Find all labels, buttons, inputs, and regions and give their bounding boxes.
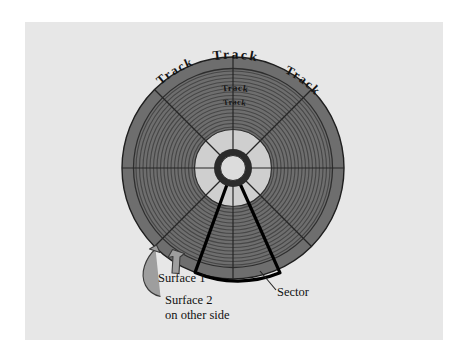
- spindle-hub: [214, 149, 252, 187]
- surface-2-label: Surface 2on other side: [165, 293, 230, 323]
- track-label-inner-upper: Track: [221, 83, 249, 94]
- sector-label: Sector: [277, 285, 309, 300]
- disk-platter-diagram: Track Track Track Track Track: [0, 0, 464, 349]
- surface-2-label-line1: Surface 2: [165, 293, 213, 307]
- surface-1-label: Surface 1: [158, 271, 206, 286]
- figure-canvas: Track Track Track Track Track: [0, 0, 464, 349]
- track-label-inner-lower: Track: [223, 98, 247, 108]
- surface-2-label-line2: on other side: [165, 308, 230, 322]
